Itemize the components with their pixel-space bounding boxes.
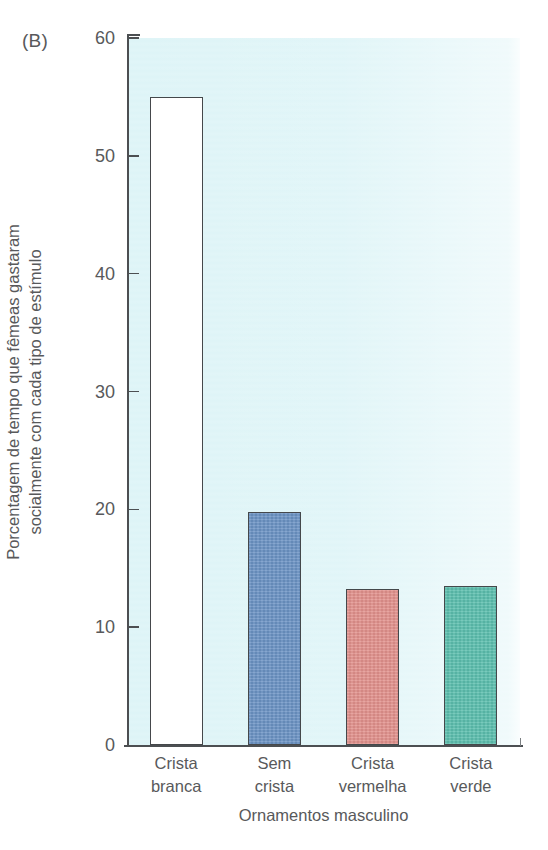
- bar: [346, 589, 399, 745]
- y-axis-tick-label: 30: [55, 381, 115, 402]
- x-axis-tick-label-line: verde: [411, 775, 531, 798]
- y-axis-tick: [127, 391, 139, 393]
- y-axis-title: Porcentagem de tempo que fêmeas gastaram…: [0, 38, 48, 746]
- y-axis-title-line-1: Porcentagem de tempo que fêmeas gastaram: [4, 224, 22, 560]
- y-axis-tick-label: 40: [55, 263, 115, 284]
- y-axis-tick: [127, 273, 139, 275]
- bar: [150, 97, 203, 745]
- y-axis-title-line-2: socialmente com cada tipo de estímulo: [24, 224, 46, 560]
- y-axis-tick-label: 50: [55, 145, 115, 166]
- bar-texture: [249, 513, 300, 744]
- x-axis-tick-label-line: Crista: [411, 752, 531, 775]
- y-axis-tick: [127, 509, 139, 511]
- y-axis-tick-label: 60: [55, 28, 115, 49]
- x-axis-tick-label: Cristaverde: [411, 752, 531, 798]
- y-axis-tick: [127, 626, 139, 628]
- x-axis-title: Ornamentos masculino: [127, 806, 520, 825]
- bar-texture: [347, 590, 398, 744]
- y-axis-tick: [127, 155, 139, 157]
- x-axis-line: [124, 745, 523, 747]
- bar: [444, 586, 497, 745]
- bar: [248, 512, 301, 745]
- figure-panel-b: (B) Porcentagem de tempo que fêmeas gast…: [0, 0, 548, 850]
- y-axis-tick-label: 10: [55, 617, 115, 638]
- x-axis-right-cap: [520, 738, 521, 746]
- y-axis-tick: [127, 37, 139, 39]
- y-axis-top-cap: [127, 34, 140, 36]
- y-axis-tick-label: 0: [55, 735, 115, 756]
- bar-texture: [445, 587, 496, 744]
- y-axis-tick-label: 20: [55, 499, 115, 520]
